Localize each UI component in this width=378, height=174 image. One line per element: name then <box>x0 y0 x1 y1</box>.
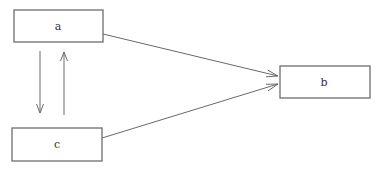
node-a-label: a <box>55 20 62 33</box>
node-c-label: c <box>54 138 60 151</box>
node-c[interactable]: c <box>12 128 102 161</box>
diagram-canvas: a b c <box>0 0 378 174</box>
edge-c-to-b <box>102 84 278 138</box>
edge-c-to-b-line <box>102 84 278 138</box>
node-a[interactable]: a <box>14 10 103 42</box>
node-b-label: b <box>320 76 327 89</box>
edge-c-to-a <box>61 52 68 115</box>
edge-a-to-b <box>103 34 278 77</box>
node-b[interactable]: b <box>280 66 370 98</box>
edge-a-to-b-line <box>103 34 278 76</box>
edge-a-to-c <box>37 51 44 113</box>
